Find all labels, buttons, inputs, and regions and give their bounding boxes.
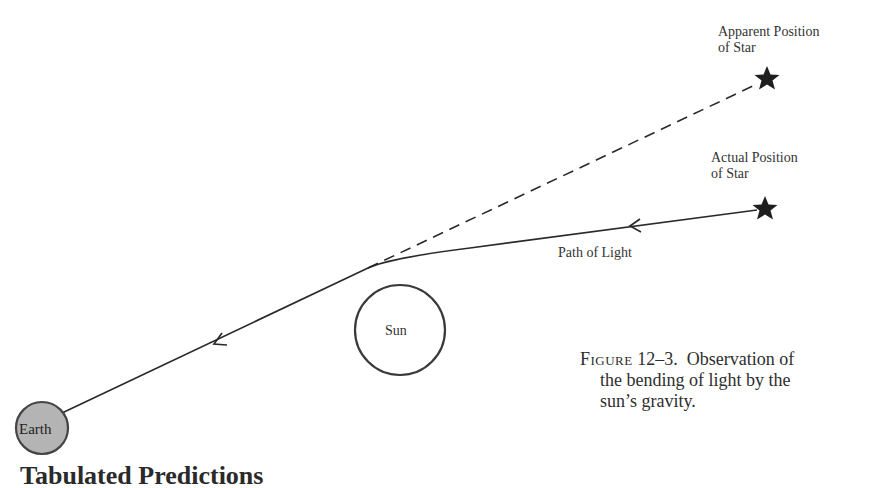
section-heading-clipped: Tabulated Predictions [20,461,263,488]
apparent-position-label: Apparent Position of Star [718,24,820,56]
caption-figure-number: 12–3. [637,349,678,369]
figure-caption: Figure 12–3. Observation of the bending … [580,349,862,412]
caption-line2: the bending of light by the [580,370,862,391]
path-of-light-label: Path of Light [558,245,632,261]
actual-position-label: Actual Position of Star [711,150,798,182]
earth-label: Earth [19,421,51,437]
caption-line3: sun’s gravity. [580,391,862,412]
caption-figure-word: Figure [580,349,633,369]
star-icon-apparent [755,66,780,90]
sun-label: Sun [385,323,407,339]
apparent-ray-dashed [368,84,757,268]
star-icon-actual [753,196,778,220]
caption-line1: Observation of [687,349,794,369]
actual-position-line1: Actual Position [711,150,798,166]
apparent-position-line2: of Star [718,40,820,56]
apparent-position-line1: Apparent Position [718,24,820,40]
actual-position-line2: of Star [711,166,798,182]
